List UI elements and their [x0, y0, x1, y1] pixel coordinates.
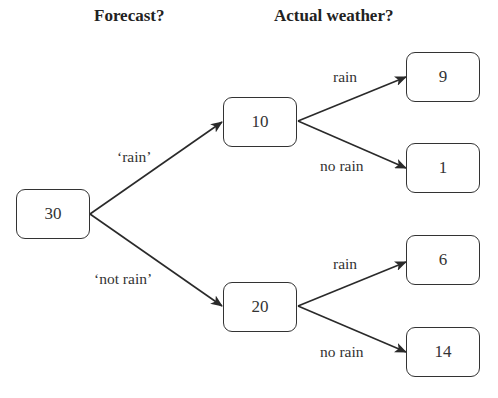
node-total: 30: [16, 189, 90, 239]
label-fr-no-rain: no rain: [320, 157, 363, 175]
edge-forecast-not-rain: [90, 214, 222, 306]
label-forecast-rain: ‘rain’: [117, 148, 151, 166]
node-fnr-no-rain: 14: [406, 327, 480, 377]
label-forecast-not-rain: ‘not rain’: [94, 270, 152, 288]
node-fr-rain: 9: [406, 52, 480, 102]
label-fr-rain: rain: [333, 68, 357, 86]
node-fnr-rain: 6: [406, 235, 480, 285]
label-fnr-no-rain: no rain: [320, 343, 363, 361]
node-forecast-rain: 10: [223, 97, 297, 147]
node-forecast-not-rain: 20: [223, 282, 297, 332]
edge-forecast-rain: [90, 122, 222, 214]
node-fr-no-rain: 1: [406, 143, 480, 193]
label-fnr-rain: rain: [333, 255, 357, 273]
